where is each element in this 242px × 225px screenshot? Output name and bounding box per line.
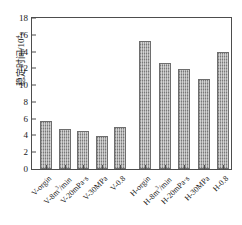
y-tick-label: 6 xyxy=(24,114,29,124)
x-tick-mark xyxy=(102,165,103,169)
x-tick-mark xyxy=(145,165,146,169)
x-tick-mark xyxy=(184,165,185,169)
y-tick-label: 18 xyxy=(19,13,28,23)
y-tick-label: 16 xyxy=(19,30,28,40)
y-tick-mark xyxy=(32,85,36,86)
x-tick-mark xyxy=(65,165,66,169)
bar xyxy=(77,131,89,169)
y-tick-label: 8 xyxy=(24,97,29,107)
y-tick-mark xyxy=(32,118,36,119)
x-tick-mark xyxy=(120,165,121,169)
plot-area: 181614121086420 xyxy=(31,17,232,170)
bar xyxy=(40,121,52,169)
y-tick-label: 12 xyxy=(19,63,28,73)
bar xyxy=(59,129,71,169)
x-tick-mark xyxy=(223,165,224,169)
y-tick-mark xyxy=(32,18,36,19)
bar xyxy=(217,52,229,169)
y-tick-label: 14 xyxy=(19,47,28,57)
x-tick-mark xyxy=(46,165,47,169)
y-tick-mark xyxy=(32,101,36,102)
y-tick-mark xyxy=(32,34,36,35)
x-tick-mark xyxy=(204,165,205,169)
y-axis-label: 稳定时间/104s xyxy=(11,9,25,109)
y-tick-mark xyxy=(32,135,36,136)
bar xyxy=(139,41,151,169)
bar xyxy=(198,79,210,169)
y-tick-mark xyxy=(32,68,36,69)
y-tick-mark xyxy=(32,152,36,153)
y-tick-mark xyxy=(32,51,36,52)
bar xyxy=(114,127,126,169)
bar xyxy=(159,63,171,169)
y-tick-label: 10 xyxy=(19,80,28,90)
y-tick-label: 0 xyxy=(24,164,29,174)
x-tick-mark xyxy=(165,165,166,169)
y-tick-label: 2 xyxy=(24,147,29,157)
y-tick-label: 4 xyxy=(24,130,29,140)
bar-chart-figure: 稳定时间/104s 181614121086420 V-orginV-8m3/m… xyxy=(0,0,242,225)
bar xyxy=(178,69,190,169)
x-tick-mark xyxy=(83,165,84,169)
